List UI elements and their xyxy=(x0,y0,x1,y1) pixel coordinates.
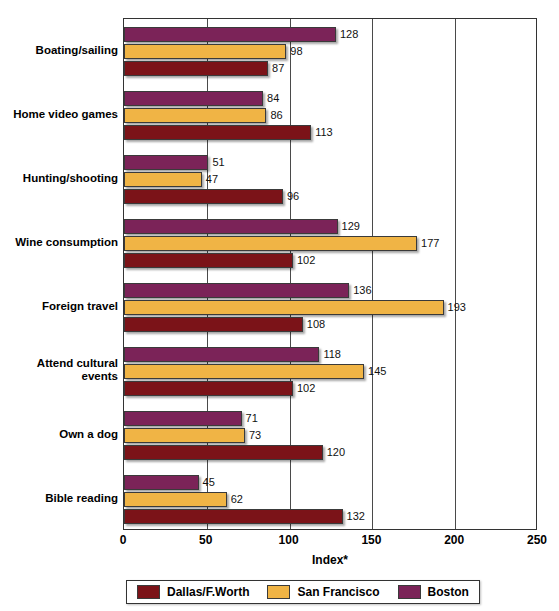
bar-dallas xyxy=(124,381,293,396)
x-axis-title: Index* xyxy=(123,553,537,567)
bar-dallas xyxy=(124,61,268,76)
category-label: Foreign travel xyxy=(0,300,118,313)
bar-row: 128 xyxy=(124,26,536,43)
bar-boston xyxy=(124,411,242,426)
x-tick-100: 100 xyxy=(279,533,299,547)
bar-boston xyxy=(124,219,338,234)
legend-item-sanfrancisco: San Francisco xyxy=(267,585,379,599)
bar-sanfrancisco xyxy=(124,44,286,59)
bar-row: 87 xyxy=(124,60,536,77)
bar-value-label: 108 xyxy=(303,317,325,332)
legend-swatch-dallas xyxy=(137,585,160,599)
bar-value-label: 73 xyxy=(245,428,261,443)
bar-row: 102 xyxy=(124,252,536,269)
bar-group: 118145102 xyxy=(124,346,536,397)
bar-row: 96 xyxy=(124,188,536,205)
x-axis-tick-labels: 050100150200250 xyxy=(123,533,537,549)
bar-value-label: 102 xyxy=(293,253,315,268)
bar-dallas xyxy=(124,317,303,332)
bar-value-label: 193 xyxy=(444,300,466,315)
legend-item-dallas: Dallas/F.Worth xyxy=(137,585,249,599)
bar-value-label: 86 xyxy=(266,108,282,123)
bar-row: 102 xyxy=(124,380,536,397)
x-tick-250: 250 xyxy=(527,533,547,547)
bar-dallas xyxy=(124,125,311,140)
bar-boston xyxy=(124,91,263,106)
bar-value-label: 87 xyxy=(268,61,284,76)
category-label: Hunting/shooting xyxy=(0,172,118,185)
category-axis-labels: Boating/sailingHome video gamesHunting/s… xyxy=(0,18,118,530)
x-tick-150: 150 xyxy=(361,533,381,547)
legend-label-sanfrancisco: San Francisco xyxy=(297,585,379,599)
bar-boston xyxy=(124,347,319,362)
bar-value-label: 84 xyxy=(263,91,279,106)
bar-row: 73 xyxy=(124,427,536,444)
bar-row: 177 xyxy=(124,235,536,252)
bar-row: 136 xyxy=(124,282,536,299)
bar-group: 129177102 xyxy=(124,218,536,269)
bar-row: 62 xyxy=(124,491,536,508)
bar-dallas xyxy=(124,253,293,268)
x-tick-50: 50 xyxy=(199,533,212,547)
category-label: Boating/sailing xyxy=(0,44,118,57)
bar-value-label: 71 xyxy=(242,411,258,426)
x-tick-200: 200 xyxy=(444,533,464,547)
bar-value-label: 62 xyxy=(227,492,243,507)
bar-dallas xyxy=(124,189,283,204)
bar-row: 47 xyxy=(124,171,536,188)
bar-value-label: 51 xyxy=(208,155,224,170)
bar-row: 113 xyxy=(124,124,536,141)
bar-row: 98 xyxy=(124,43,536,60)
bar-sanfrancisco xyxy=(124,172,202,187)
legend-swatch-boston xyxy=(398,585,421,599)
bar-row: 108 xyxy=(124,316,536,333)
bar-sanfrancisco xyxy=(124,492,227,507)
bar-row: 84 xyxy=(124,90,536,107)
plot-area: 1289887848611351479612917710213619310811… xyxy=(123,18,537,530)
bar-group: 7173120 xyxy=(124,410,536,461)
bar-value-label: 136 xyxy=(349,283,371,298)
bar-value-label: 96 xyxy=(283,189,299,204)
legend-label-dallas: Dallas/F.Worth xyxy=(167,585,249,599)
bar-row: 132 xyxy=(124,508,536,525)
chart-legend: Dallas/F.WorthSan FranciscoBoston xyxy=(126,580,480,604)
bar-boston xyxy=(124,155,208,170)
bar-value-label: 113 xyxy=(311,125,333,140)
bar-row: 193 xyxy=(124,299,536,316)
bar-group: 4562132 xyxy=(124,474,536,525)
legend-swatch-sanfrancisco xyxy=(267,585,290,599)
bar-value-label: 129 xyxy=(338,219,360,234)
bar-group: 1289887 xyxy=(124,26,536,77)
bar-value-label: 47 xyxy=(202,172,218,187)
bar-row: 51 xyxy=(124,154,536,171)
bar-row: 145 xyxy=(124,363,536,380)
bar-row: 129 xyxy=(124,218,536,235)
bar-value-label: 102 xyxy=(293,381,315,396)
category-label: Attend cultural events xyxy=(0,357,118,383)
category-label: Own a dog xyxy=(0,428,118,441)
bar-value-label: 98 xyxy=(286,44,302,59)
x-tick-0: 0 xyxy=(120,533,127,547)
category-label: Bible reading xyxy=(0,492,118,505)
bar-value-label: 120 xyxy=(323,445,345,460)
bar-row: 86 xyxy=(124,107,536,124)
bar-chart: Boating/sailingHome video gamesHunting/s… xyxy=(0,0,559,611)
bar-value-label: 118 xyxy=(319,347,341,362)
bar-group: 8486113 xyxy=(124,90,536,141)
bar-row: 71 xyxy=(124,410,536,427)
bar-dallas xyxy=(124,509,343,524)
category-label: Wine consumption xyxy=(0,236,118,249)
legend-label-boston: Boston xyxy=(428,585,469,599)
bar-group: 514796 xyxy=(124,154,536,205)
bar-value-label: 45 xyxy=(199,475,215,490)
bar-value-label: 145 xyxy=(364,364,386,379)
bar-value-label: 177 xyxy=(417,236,439,251)
bar-row: 120 xyxy=(124,444,536,461)
bar-value-label: 132 xyxy=(343,509,365,524)
legend-item-boston: Boston xyxy=(398,585,469,599)
bar-sanfrancisco xyxy=(124,108,266,123)
category-label: Home video games xyxy=(0,108,118,121)
bar-dallas xyxy=(124,445,323,460)
bar-row: 118 xyxy=(124,346,536,363)
bar-group: 136193108 xyxy=(124,282,536,333)
